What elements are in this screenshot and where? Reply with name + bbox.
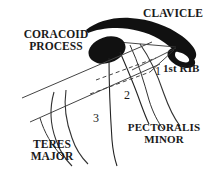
marker-1: 1	[155, 64, 161, 79]
label-pectoralis-minor: PECTORALIS MINOR	[118, 122, 210, 145]
label-clavicle: CLAVICLE	[143, 7, 203, 19]
anatomy-diagram-figure: CLAVICLE CORACOID PROCESS 1st RIB PECTOR…	[0, 0, 220, 176]
marker-3: 3	[93, 111, 99, 126]
label-coracoid-process: CORACOID PROCESS	[8, 28, 104, 52]
label-first-rib: 1st RIB	[163, 63, 199, 75]
marker-2: 2	[124, 88, 130, 103]
label-teres-major: TERES MAJOR	[22, 138, 82, 162]
pectoralis-minor-lines	[109, 52, 149, 166]
